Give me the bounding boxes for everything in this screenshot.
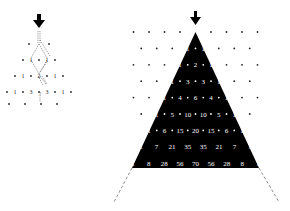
pascal-number: 5 (217, 111, 221, 119)
pascal-number: 35 (184, 143, 192, 151)
lattice-dot (202, 97, 204, 99)
lattice-dot (70, 91, 72, 93)
lattice-dot (24, 103, 26, 105)
lattice-dot (226, 31, 228, 33)
lattice-dot (140, 48, 142, 50)
lattice-dot (210, 80, 212, 82)
lattice-dot (171, 48, 173, 50)
pascal-number: 1 (54, 73, 57, 79)
lattice-dot (133, 64, 135, 66)
lattice-dot (164, 64, 166, 66)
down-arrow-icon (33, 14, 45, 28)
pascal-number: 3 (202, 78, 206, 86)
lattice-dot (187, 97, 189, 99)
lattice-dot (148, 64, 150, 66)
pascal-number: 1 (186, 45, 190, 53)
lattice-dot (14, 75, 16, 77)
pascal-number: 1 (209, 61, 213, 69)
pascal-number: 1 (233, 111, 237, 119)
lattice-dot (195, 113, 197, 115)
lattice-dot (202, 64, 204, 66)
lattice-dot (133, 97, 135, 99)
pascal-number: 5 (171, 111, 175, 119)
pascal-number: 8 (147, 160, 151, 168)
lattice-dot (249, 113, 251, 115)
left-diagram: 111211331? (6, 14, 72, 105)
lattice-dot (56, 103, 58, 105)
pascal-diagram: 111211331? 11121133114641151010511615201… (0, 0, 290, 211)
pascal-number: 1 (225, 94, 229, 102)
pascal-number: 70 (192, 160, 200, 168)
right-diagram: 1112113311464115101051161520156117213535… (114, 11, 279, 202)
lattice-dot (187, 64, 189, 66)
pascal-number: 1 (171, 78, 175, 86)
pascal-number: 1 (256, 160, 260, 168)
lattice-dot (171, 130, 173, 132)
lattice-dot (233, 80, 235, 82)
lattice-dot (233, 48, 235, 50)
lattice-dot (38, 59, 40, 61)
extension-lines (114, 168, 279, 202)
pascal-number: 10 (200, 111, 208, 119)
pascal-number: 1 (217, 78, 221, 86)
pascal-number: 56 (208, 160, 216, 168)
lattice-dot (226, 64, 228, 66)
pascal-number: 28 (223, 160, 231, 168)
lattice-dot (179, 80, 181, 82)
pascal-number: 1 (139, 143, 143, 151)
lattice-dot (202, 130, 204, 132)
lattice-dot (28, 43, 30, 45)
lattice-dot (164, 113, 166, 115)
pascal-number: 1 (202, 45, 206, 53)
pascal-number: 3 (186, 78, 190, 86)
pascal-number: 7 (155, 143, 159, 151)
lattice-dot (241, 31, 243, 33)
pascal-number: 1 (178, 61, 182, 69)
pascal-number: 4 (209, 94, 213, 102)
pascal-number: 21 (169, 143, 177, 151)
lattice-dot (241, 64, 243, 66)
down-arrow-icon (190, 11, 201, 25)
lattice-dot (62, 75, 64, 77)
lattice-dot (218, 97, 220, 99)
lattice-dot (156, 80, 158, 82)
pascal-number: 8 (241, 160, 245, 168)
pascal-number: 7 (233, 143, 237, 151)
pascal-number: 3 (30, 89, 33, 95)
lattice-dot (6, 91, 8, 93)
lattice-dot (257, 64, 259, 66)
pascal-number: 15 (177, 127, 185, 135)
lattice-dot (179, 31, 181, 33)
pascal-number: 3 (46, 89, 49, 95)
lattice-dot (249, 80, 251, 82)
pascal-number: 15 (208, 127, 216, 135)
pascal-number: 6 (194, 94, 198, 102)
pascal-number: 6 (225, 127, 229, 135)
lattice-dot (195, 48, 197, 50)
pascal-number: 1 (147, 127, 151, 135)
pascal-number: 2 (194, 61, 198, 69)
lattice-dot (257, 97, 259, 99)
pascal-number: 10 (184, 111, 192, 119)
lattice-dot (249, 48, 251, 50)
lattice-dot (54, 91, 56, 93)
lattice-dot (8, 103, 10, 105)
pascal-number: 1 (163, 94, 167, 102)
lattice-dot (164, 31, 166, 33)
pascal-number: 20 (192, 127, 200, 135)
lattice-dot (218, 130, 220, 132)
lattice-dot (148, 31, 150, 33)
pascal-number: 6 (163, 127, 167, 135)
pascal-number: 1 (62, 89, 65, 95)
lattice-dot (156, 130, 158, 132)
lattice-dot (30, 75, 32, 77)
lattice-dot (257, 31, 259, 33)
pascal-number: 56 (176, 160, 184, 168)
lattice-dot (156, 48, 158, 50)
lattice-dot (140, 80, 142, 82)
lattice-dot (48, 43, 50, 45)
pascal-number: 21 (215, 143, 223, 151)
path-label: ? (39, 91, 42, 96)
lattice-dot (133, 31, 135, 33)
lattice-dot (54, 59, 56, 61)
